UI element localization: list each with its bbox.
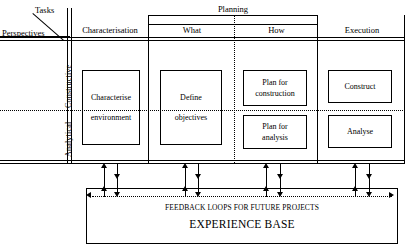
column-header-what: What <box>150 25 234 36</box>
cell-construct-line1: Construct <box>329 81 391 92</box>
row-label-analytical: Analytical <box>64 122 73 157</box>
feedback-loops-label: FEEDBACK LOOPS FOR FUTURE PROJECTS <box>86 203 398 212</box>
axis-label-tasks: Tasks <box>35 5 54 15</box>
body-bottom-rule-lower <box>0 163 405 164</box>
cell-analyse[interactable]: Analyse <box>328 115 392 148</box>
cell-plan-for-analysis[interactable]: Plan for analysis <box>243 115 307 149</box>
arrow-down-shaft-what <box>198 164 199 195</box>
arrow-up-head-characterisation <box>101 163 107 168</box>
arrow-up-head-mid-what <box>182 186 188 191</box>
body-bottom-rule-upper <box>0 160 405 161</box>
feedback-arrow-left <box>86 192 91 198</box>
arrow-up-head-execution <box>352 163 358 168</box>
cell-construct[interactable]: Construct <box>328 70 392 103</box>
arrow-up-shaft-how <box>266 168 267 197</box>
arrow-up-head-mid-how <box>263 186 269 191</box>
planning-group-left-tick <box>148 15 149 24</box>
cell-plan-for-construction-line1: Plan for <box>244 77 306 88</box>
cell-characterise-environment[interactable]: Characterise environment <box>82 70 140 145</box>
arrow-down-head-what <box>195 192 201 197</box>
cell-plan-for-analysis-line2: analysis <box>244 132 306 143</box>
row-label-constructive: Constructive <box>64 65 73 108</box>
planning-group-top-rule <box>148 15 318 16</box>
arrow-down-shaft-execution <box>369 164 370 195</box>
header-separator-rule-lower <box>0 40 405 41</box>
column-separator-how-execution <box>317 15 318 163</box>
cell-analyse-line1: Analyse <box>329 126 391 137</box>
feedback-dotted-line <box>92 196 392 197</box>
cell-plan-for-construction[interactable]: Plan for construction <box>243 70 307 106</box>
arrow-up-head-how <box>263 163 269 168</box>
cell-characterise-environment-line1: Characterise <box>83 92 139 103</box>
column-header-characterisation: Characterisation <box>72 25 148 36</box>
arrow-up-head-what <box>182 163 188 168</box>
arrow-up-head-mid-execution <box>352 186 358 191</box>
diagram-canvas: Tasks Perspectives Planning Characterisa… <box>0 0 413 252</box>
feedback-arrow-right <box>389 192 394 198</box>
arrow-up-head-mid-characterisation <box>101 186 107 191</box>
cell-define-objectives-line2: objectives <box>161 112 221 123</box>
header-separator-rule-upper <box>0 37 405 38</box>
cell-define-objectives[interactable]: Define objectives <box>160 70 222 145</box>
group-header-planning: Planning <box>148 4 318 15</box>
perspectives-underline <box>0 36 70 37</box>
arrow-down-head-upper-characterisation <box>114 174 120 179</box>
arrow-down-head-upper-how <box>277 174 283 179</box>
column-separator-what-how <box>234 15 235 163</box>
arrow-down-head-how <box>277 192 283 197</box>
grid-right-edge <box>404 15 405 163</box>
column-header-how: How <box>236 25 317 36</box>
cell-define-objectives-line1: Define <box>161 92 221 103</box>
arrow-up-shaft-what <box>185 168 186 197</box>
arrow-up-shaft-characterisation <box>104 168 105 197</box>
arrow-down-head-upper-what <box>195 174 201 179</box>
column-separator-characterisation-what <box>148 24 149 163</box>
experience-base-label: EXPERIENCE BASE <box>86 218 398 230</box>
arrow-down-head-execution <box>366 192 372 197</box>
arrow-down-head-characterisation <box>114 192 120 197</box>
arrow-down-shaft-characterisation <box>117 164 118 195</box>
arrow-up-shaft-execution <box>355 168 356 197</box>
cell-plan-for-analysis-line1: Plan for <box>244 121 306 132</box>
arrow-down-head-upper-execution <box>366 174 372 179</box>
cell-plan-for-construction-line2: construction <box>244 88 306 99</box>
column-header-execution: Execution <box>319 25 405 36</box>
cell-characterise-environment-line2: environment <box>83 112 139 123</box>
arrow-down-shaft-how <box>280 164 281 195</box>
